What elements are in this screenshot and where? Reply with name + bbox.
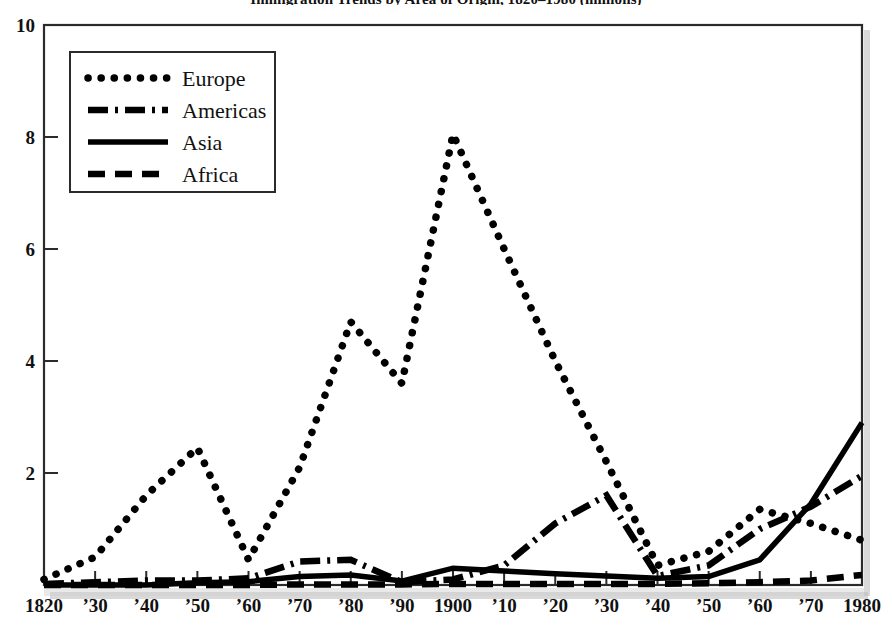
x-axis-tick-label: ’50 xyxy=(696,595,721,616)
x-axis-tick-label: ’20 xyxy=(543,595,568,616)
x-axis-tick-label: ’60 xyxy=(747,595,772,616)
y-axis-labels: 246810 xyxy=(16,15,36,484)
x-axis-tick-label: ’90 xyxy=(389,595,414,616)
x-axis-tick-label: ’50 xyxy=(185,595,210,616)
x-axis-tick-label: 1900 xyxy=(434,595,472,616)
x-axis-tick-label: 1820 xyxy=(25,595,63,616)
immigration-line-chart: Immigration Trends by Area of Origin, 18… xyxy=(0,0,892,635)
data-series-layer xyxy=(44,134,862,585)
series-line-asia xyxy=(44,423,862,585)
x-axis-tick-label: ’70 xyxy=(287,595,312,616)
x-axis-tick-label: ’40 xyxy=(645,595,670,616)
y-axis-tick-label: 4 xyxy=(26,351,36,372)
legend-label-americas: Americas xyxy=(182,98,266,123)
x-axis-tick-label: ’30 xyxy=(594,595,619,616)
x-axis-tick-label: ’80 xyxy=(338,595,363,616)
x-axis-tick-label: ’60 xyxy=(236,595,261,616)
chart-legend: EuropeAmericasAsiaAfrica xyxy=(70,52,275,192)
chart-plot-area: 246810 1820’30’40’50’60’70’80’901900’10’… xyxy=(0,0,892,635)
y-axis-tick-label: 10 xyxy=(16,15,35,36)
x-axis-tick-label: ’40 xyxy=(134,595,159,616)
legend-label-europe: Europe xyxy=(182,66,246,91)
y-axis-tick-label: 8 xyxy=(26,127,36,148)
legend-label-asia: Asia xyxy=(182,130,223,155)
y-axis-tick-label: 2 xyxy=(26,463,36,484)
y-axis-ticks xyxy=(44,137,58,473)
x-axis-tick-label: ’70 xyxy=(798,595,823,616)
x-axis-tick-label: ’30 xyxy=(82,595,107,616)
x-axis-tick-label: ’10 xyxy=(491,595,516,616)
x-axis-labels: 1820’30’40’50’60’70’80’901900’10’20’30’4… xyxy=(25,595,881,616)
x-axis-tick-label: 1980 xyxy=(843,595,881,616)
series-line-europe xyxy=(44,134,862,579)
y-axis-tick-label: 6 xyxy=(26,239,36,260)
legend-label-africa: Africa xyxy=(182,162,238,187)
